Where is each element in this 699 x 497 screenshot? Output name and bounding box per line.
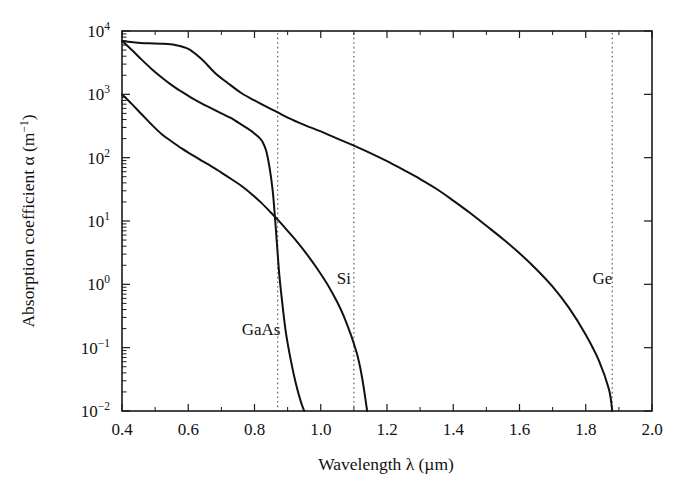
x-tick-label: 0.6	[178, 420, 199, 439]
curve-si	[122, 94, 367, 411]
y-axis-title-suffix: )	[18, 114, 38, 120]
y-tick-label: 103	[87, 83, 110, 104]
curve-label-ge: Ge	[592, 269, 612, 288]
y-tick-label: 102	[87, 147, 110, 168]
x-tick-label: 1.0	[310, 420, 331, 439]
plot-frame	[122, 31, 652, 411]
y-tick-label: 10−2	[81, 400, 110, 421]
absorption-coefficient-figure: 0.40.60.81.01.21.41.61.82.0 104103102101…	[0, 0, 699, 497]
x-tick-label: 0.4	[111, 420, 133, 439]
y-tick-labels: 10410310210110010−110−2	[81, 20, 111, 421]
x-tick-label: 2.0	[641, 420, 662, 439]
axis-ticks	[122, 31, 652, 411]
y-axis-title: Absorption coefficient α (m−1)	[18, 114, 38, 327]
absorption-curves	[122, 41, 612, 411]
curve-annotations: GaAsSiGe	[242, 269, 612, 338]
curve-gaas	[122, 41, 304, 411]
x-tick-label: 1.2	[376, 420, 397, 439]
x-tick-label: 1.6	[509, 420, 530, 439]
y-tick-label: 104	[87, 20, 110, 41]
x-tick-label: 0.8	[244, 420, 265, 439]
y-tick-label: 10−1	[81, 337, 110, 358]
y-tick-label: 100	[87, 273, 110, 294]
x-axis-title: Wavelength λ (µm)	[318, 454, 454, 474]
curve-ge	[122, 41, 612, 411]
bandgap-cutoff-lines	[278, 33, 613, 411]
x-tick-labels: 0.40.60.81.01.21.41.61.82.0	[111, 420, 662, 439]
y-tick-label: 101	[87, 210, 110, 231]
y-axis-title-exponent: −1	[18, 120, 30, 132]
chart-canvas: 0.40.60.81.01.21.41.61.82.0 104103102101…	[0, 0, 699, 497]
curve-label-si: Si	[337, 269, 351, 288]
x-tick-label: 1.4	[443, 420, 465, 439]
x-tick-label: 1.8	[575, 420, 596, 439]
y-axis-title-prefix: Absorption coefficient α (m	[18, 132, 38, 327]
curve-label-gaas: GaAs	[242, 320, 281, 339]
